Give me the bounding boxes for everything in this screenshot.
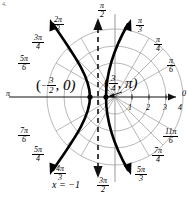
angle-11pi-over-6: 11π6 [163,128,178,146]
tick-2: 2 [146,104,150,112]
angle-pi-over-4: π4 [154,36,162,54]
angle-3pi-over-4: 3π4 [32,34,44,52]
angle-5pi-over-4: 5π4 [32,146,44,164]
tick-4: 4 [178,104,182,112]
angle-pi-over-2: π2 [98,2,106,20]
angle-pi-over-6: π6 [167,57,175,75]
tick-3: 3 [163,104,167,112]
angle-5pi-over-6: 5π6 [18,55,30,73]
angle-7pi-over-6: 7π6 [18,127,30,145]
angle-2pi-over-3: 2π3 [52,16,64,34]
angle-pi-over-3: π3 [136,17,144,35]
angle-3pi-over-2: 3π2 [97,177,109,195]
angle-5pi-over-3: 5π3 [135,166,147,184]
point-label-left-vertex: (−32, 0) [36,76,76,96]
angle-label-zero: 0 [182,90,186,98]
tick-1: 1 [128,104,132,112]
angle-label-pi: π [6,90,10,98]
polar-graph-figure: 4. [0,0,188,198]
angle-7pi-over-4: 7π4 [152,147,164,165]
asymptote-equation-label: x = −1 [52,180,80,190]
polar-plot-canvas [0,0,188,198]
point-label-right-vertex: (34, π) [104,74,138,94]
